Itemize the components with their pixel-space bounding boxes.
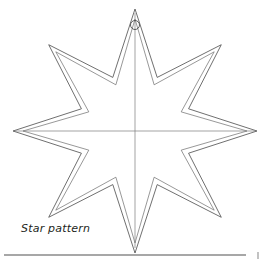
figure-caption: Star pattern [21,222,90,235]
figure-page: Star pattern [0,0,266,263]
